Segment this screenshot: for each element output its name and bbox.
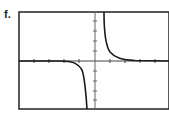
curve-right-branch	[104, 12, 169, 61]
chart	[0, 0, 169, 120]
curve-left-branch	[19, 61, 87, 109]
